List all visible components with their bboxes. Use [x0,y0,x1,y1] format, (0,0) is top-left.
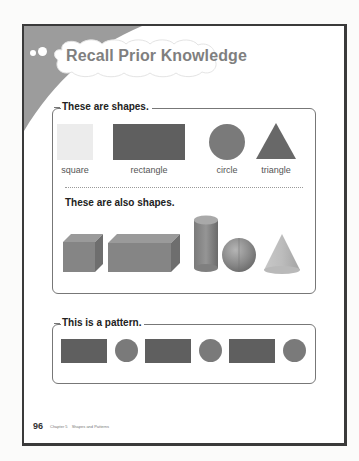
shapes-box: These are shapes. square rectangle circl… [52,108,316,294]
square-label: square [57,165,93,175]
sphere-icon [221,237,257,273]
page-title: Recall Prior Knowledge [66,47,247,65]
chapter-footer: Chapter 5 Shapes and Patterns [50,424,112,429]
circle-icon [209,124,245,160]
chapter-title: Shapes and Patterns [72,424,109,429]
dot-small-icon [30,50,36,56]
pattern-box: This is a pattern. [52,324,316,384]
rectangular-prism-icon [108,234,180,272]
pattern-circle-icon [283,339,306,362]
pattern-rectangle-icon [145,339,191,363]
cone-icon [263,233,301,275]
pattern-rectangle-icon [61,339,107,363]
cube-icon [63,234,103,272]
page-number: 96 [33,421,43,431]
rectangle-label: rectangle [113,165,185,175]
circle-label: circle [203,165,251,175]
rectangle-icon [113,124,185,160]
triangle-label: triangle [251,165,301,175]
pattern-circle-icon [199,339,222,362]
dotted-divider [65,187,303,188]
square-icon [57,124,93,160]
also-shapes-heading: These are also shapes. [65,197,175,208]
pattern-rectangle-icon [229,339,275,363]
shapes-box-title: These are shapes. [61,101,152,112]
textbook-page: Recall Prior Knowledge These are shapes.… [22,24,347,446]
triangle-icon [255,122,297,160]
chapter-label: Chapter 5 [50,424,68,429]
dot-large-icon [38,47,47,56]
pattern-circle-icon [115,339,138,362]
cloud-banner: Recall Prior Knowledge [52,38,222,78]
cylinder-icon [193,215,219,273]
pattern-box-title: This is a pattern. [61,317,144,328]
